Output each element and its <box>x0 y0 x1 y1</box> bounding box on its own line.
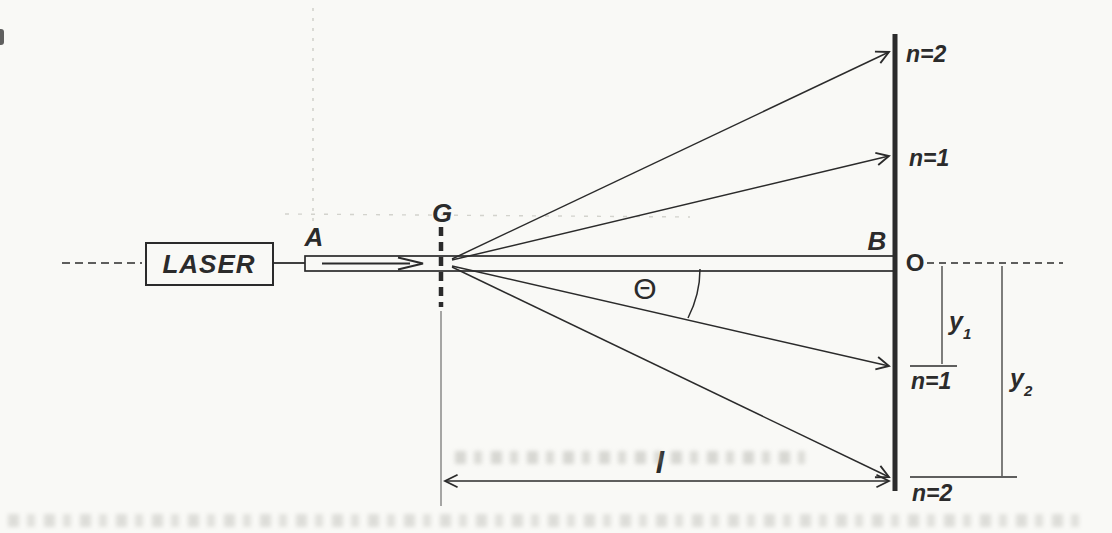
diffraction-diagram: LASER A G Θ B O n=2 n=1 n=1 <box>0 0 1112 533</box>
order-n2-bottom-label: n=2 <box>912 480 952 506</box>
y2-label: y2 <box>1008 364 1033 399</box>
order-n2-top-label: n=2 <box>906 41 946 67</box>
angle-arc <box>688 269 700 318</box>
diffracted-rays <box>452 52 889 477</box>
point-a-label: A <box>304 222 324 252</box>
angle-theta-label: Θ <box>633 272 656 305</box>
point-b-label: B <box>868 226 887 256</box>
order-n1-bottom-label: n=1 <box>911 368 951 394</box>
distance-l-label: l <box>656 446 665 479</box>
scan-artifacts <box>285 8 690 228</box>
grating-label: G <box>432 198 452 228</box>
ray-n2-up <box>452 52 889 259</box>
ray-n1-up <box>452 156 889 260</box>
origin-o-label: O <box>906 249 925 276</box>
ray-n1-down <box>452 266 889 366</box>
y1-label: y1 <box>947 307 971 342</box>
ray-n2-down <box>452 267 889 477</box>
scanned-figure-page: LASER A G Θ B O n=2 n=1 n=1 <box>0 0 1112 533</box>
scan-edge-artifact <box>0 29 4 45</box>
laser-label: LASER <box>162 249 255 279</box>
order-n1-top-label: n=1 <box>909 145 949 171</box>
